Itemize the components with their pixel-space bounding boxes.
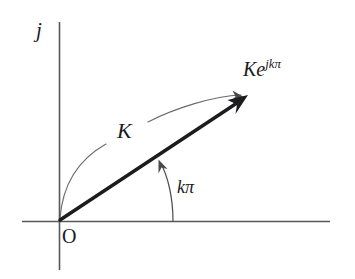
angle-arc-path <box>161 163 174 221</box>
phasor-vector-line <box>60 101 240 220</box>
phasor-label-exponent: jkπ <box>265 57 281 71</box>
figure-canvas: j O K Kejkπ kπ <box>0 0 355 279</box>
magnitude-label: K <box>117 120 132 142</box>
origin-label: O <box>62 226 76 246</box>
angle-label: kπ <box>177 178 194 196</box>
phasor-label-base: Ke <box>243 58 265 80</box>
phasor-label: Kejkπ <box>243 58 281 79</box>
imaginary-axis-label: j <box>36 20 42 41</box>
magnitude-indicator-curve <box>60 144 106 219</box>
phasor-vector-arrowhead <box>228 95 249 114</box>
diagram-svg <box>0 0 355 279</box>
angle-arc-arrowhead <box>159 160 168 174</box>
